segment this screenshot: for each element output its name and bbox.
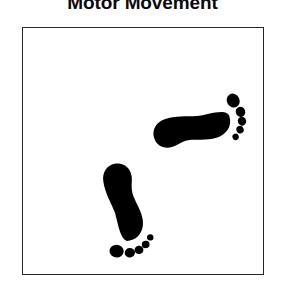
footprints-layer [96, 90, 253, 260]
figure-title-container: Motor Movement [0, 0, 285, 14]
footprint-toe-1 [109, 244, 124, 258]
footprint-toe-2 [234, 105, 246, 118]
footprint-toe-5 [147, 234, 154, 241]
footprint-sole [150, 100, 235, 156]
footprint-toe-4 [235, 125, 244, 135]
left-footprint [96, 160, 156, 261]
footprint-toe-2 [124, 247, 136, 258]
right-footprint [148, 90, 253, 164]
footprint-sole [101, 161, 145, 243]
footprint-toe-5 [232, 133, 240, 141]
footprint-toe-3 [237, 116, 248, 127]
footprint-toe-4 [141, 240, 150, 248]
figure-root: Motor Movement [0, 0, 285, 294]
footprint-canvas [23, 28, 263, 274]
footprint-toe-3 [134, 245, 144, 254]
page-title: Motor Movement [0, 0, 285, 13]
stimulus-panel [22, 27, 264, 275]
